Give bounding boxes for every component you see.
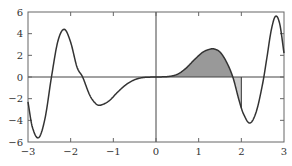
y-tick-label: −4 (8, 115, 23, 126)
y-tick-label: −2 (8, 93, 23, 104)
x-tick-label: −1 (106, 146, 121, 157)
x-tick-label: 3 (281, 146, 287, 157)
y-tick-label: −6 (8, 137, 23, 148)
x-tick-label: −3 (21, 146, 36, 157)
y-tick-label: 2 (17, 50, 23, 61)
x-tick-label: 2 (238, 146, 244, 157)
x-tick-label: 0 (153, 146, 159, 157)
y-tick-label: 6 (17, 7, 23, 18)
y-tick-label: 0 (17, 72, 23, 83)
y-tick-label: 4 (17, 28, 23, 39)
x-tick-label: 1 (195, 146, 201, 157)
x-tick-label: −2 (63, 146, 78, 157)
chart: −3−2−10123−6−4−20246 (0, 0, 292, 166)
